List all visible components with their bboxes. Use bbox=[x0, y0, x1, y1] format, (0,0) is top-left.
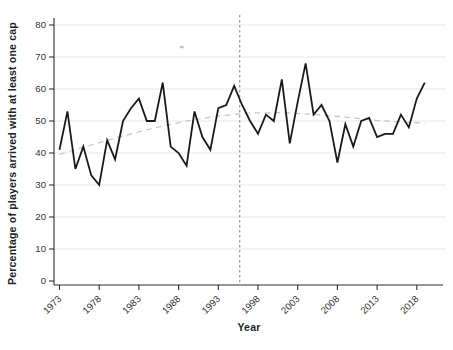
data-series-line bbox=[60, 63, 425, 185]
svg-text:40: 40 bbox=[35, 147, 46, 158]
svg-text:2013: 2013 bbox=[358, 293, 381, 316]
svg-text:80: 80 bbox=[35, 19, 46, 30]
x-tick-labels: 1973197819831988199319982003200820132018 bbox=[41, 285, 421, 316]
svg-text:20: 20 bbox=[35, 211, 46, 222]
svg-text:60: 60 bbox=[35, 83, 46, 94]
x-axis-title: Year bbox=[199, 321, 299, 333]
svg-text:10: 10 bbox=[35, 243, 46, 254]
y-axis-title: Percentage of players arrived with at le… bbox=[6, 4, 21, 304]
svg-text:0: 0 bbox=[41, 275, 46, 286]
svg-text:1988: 1988 bbox=[160, 293, 183, 316]
svg-text:2008: 2008 bbox=[318, 293, 341, 316]
svg-text:50: 50 bbox=[35, 115, 46, 126]
gridlines bbox=[54, 25, 446, 249]
line-chart-svg: 0102030405060708019731978198319881993199… bbox=[0, 0, 453, 350]
stray-mark bbox=[180, 46, 184, 49]
svg-text:1978: 1978 bbox=[80, 293, 103, 316]
svg-text:1973: 1973 bbox=[41, 293, 64, 316]
line-chart-figure: 0102030405060708019731978198319881993199… bbox=[0, 0, 453, 350]
svg-text:2003: 2003 bbox=[279, 293, 302, 316]
svg-text:1998: 1998 bbox=[239, 293, 262, 316]
svg-text:30: 30 bbox=[35, 179, 46, 190]
svg-text:1983: 1983 bbox=[120, 293, 143, 316]
svg-text:1993: 1993 bbox=[199, 293, 222, 316]
svg-text:2018: 2018 bbox=[398, 293, 421, 316]
svg-text:70: 70 bbox=[35, 51, 46, 62]
y-tick-labels: 01020304050607080 bbox=[35, 19, 54, 286]
